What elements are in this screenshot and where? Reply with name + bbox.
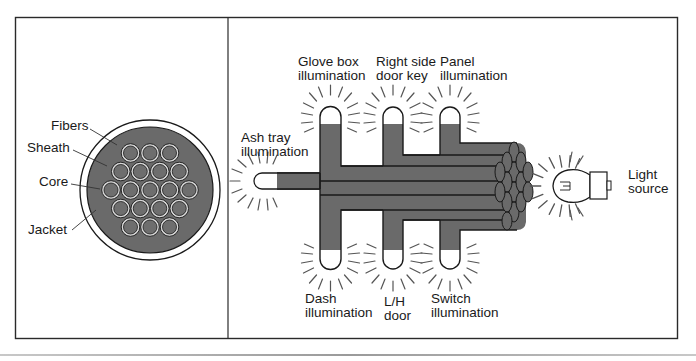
label-jacket: Jacket [28, 223, 67, 237]
fiber-core [124, 183, 138, 197]
label-dash: Dash illumination [305, 292, 373, 320]
fiber-core [153, 165, 167, 179]
fiber-core [104, 183, 118, 197]
fiber-core [143, 183, 157, 197]
label-sheath: Sheath [27, 141, 70, 155]
fiber-core [133, 202, 147, 216]
fiber-optic-diagram: Fibers Sheath Core Jacket Glove box illu… [0, 0, 696, 361]
label-glove-box: Glove box illumination [298, 55, 366, 83]
label-lh-door: L/H door [384, 295, 411, 323]
label-core: Core [39, 175, 68, 189]
label-ash-tray: Ash tray illumination [241, 131, 309, 159]
label-fibers: Fibers [51, 119, 89, 133]
fiber-core [124, 146, 138, 160]
fiber-core [143, 220, 157, 234]
fiber-core [133, 165, 147, 179]
fiber-core [124, 220, 138, 234]
label-light-source: Light source [628, 168, 669, 196]
fiber-core [114, 202, 128, 216]
fiber-core [163, 146, 177, 160]
fiber-core [163, 183, 177, 197]
fiber-core [143, 146, 157, 160]
fiber-core [163, 220, 177, 234]
label-panel: Panel illumination [440, 55, 508, 83]
fiber-core [153, 202, 167, 216]
fiber-core [182, 183, 196, 197]
fiber-core [172, 202, 186, 216]
fiber-core [172, 165, 186, 179]
fiber-core [114, 165, 128, 179]
label-switch: Switch illumination [431, 292, 499, 320]
label-right-door-key: Right side door key [376, 55, 436, 83]
page-rule [0, 354, 696, 356]
